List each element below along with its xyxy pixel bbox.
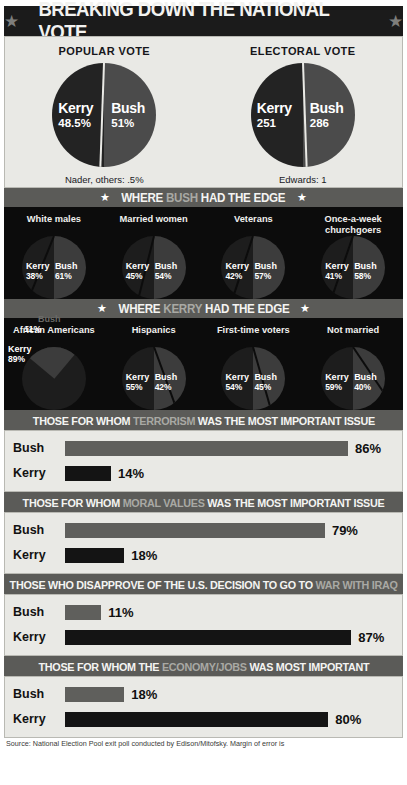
mini-group-title: Hispanics <box>132 325 176 346</box>
star-icon-left: ★ <box>4 13 19 30</box>
pie-label-bush-name: Bush <box>354 261 377 271</box>
star-icon-left: ★ <box>97 303 107 314</box>
bar-track: 80% <box>65 712 394 727</box>
pie-label-bush: Bush 42% <box>155 372 182 392</box>
band-highlight: KERRY <box>163 302 202 316</box>
mini-pie: Kerry 59% Bush 40% <box>321 347 385 410</box>
bar-row-bush: Bush 79% <box>13 520 394 540</box>
electoral-vote-group: ELECTORAL VOTE Kerry 251 Bush 286 Edward… <box>204 37 403 185</box>
bar-value-bush: 11% <box>108 605 133 620</box>
source-note: Source: National Election Pool exit poll… <box>4 740 403 748</box>
mini-pie-labels: Kerry 59% Bush 40% <box>321 347 385 410</box>
bar-label-kerry: Kerry <box>13 630 65 644</box>
bar-value-bush: 79% <box>332 523 358 538</box>
bar-row-kerry: Kerry 18% <box>13 545 394 565</box>
pie-label-kerry: Kerry 54% <box>225 372 252 392</box>
electoral-vote-pie-labels: Kerry 251 Bush 286 <box>251 63 355 167</box>
pie-label-kerry: Kerry 251 <box>251 101 302 130</box>
bar-kerry <box>65 466 111 481</box>
electoral-vote-note: Edwards: 1 <box>279 174 327 185</box>
bar-label-kerry: Kerry <box>13 712 65 726</box>
star-icon-right: ★ <box>297 192 307 203</box>
star-icon-right: ★ <box>300 303 310 314</box>
bar-kerry <box>65 630 351 645</box>
mini-pie: Kerry 54% Bush 45% <box>221 347 285 410</box>
band-pre: THOSE FOR WHOM <box>23 496 123 509</box>
mini-group-title: Not married <box>327 325 379 346</box>
band-pre: WHERE <box>121 191 166 205</box>
kerry-edge-band: ★ WHERE KERRY HAD THE EDGE ★ <box>4 299 403 318</box>
national-vote-panel: POPULAR VOTE Kerry 48.5% Bush 51% Nader,… <box>4 36 403 188</box>
pie-label-kerry: Kerry 89% <box>8 344 32 364</box>
bar-kerry <box>65 712 328 727</box>
bush-edge-band-text: WHERE BUSH HAD THE EDGE <box>121 191 285 205</box>
popular-vote-note: Nader, others: .5% <box>65 174 144 185</box>
band-highlight: BUSH <box>166 191 198 205</box>
bar-track: 14% <box>65 466 394 481</box>
band-post: WAS THE MOST IMPORTANT ISSUE <box>205 496 385 509</box>
mini-group-white-males: White males Kerry 38% Bush 61% <box>4 207 104 299</box>
mini-pie-labels: Kerry 54% Bush 45% <box>221 347 285 410</box>
bar-value-kerry: 18% <box>131 548 157 563</box>
pie-label-kerry: Kerry 55% <box>126 372 153 392</box>
mini-pie-labels: Kerry 55% Bush 42% <box>122 347 186 410</box>
band-pre: THOSE WHO DISAPPROVE OF THE U.S. DECISIO… <box>10 578 316 591</box>
mini-pie: Kerry 45% Bush 54% <box>122 236 186 299</box>
issue-band-text: THOSE FOR WHOM TERRORISM WAS THE MOST IM… <box>32 414 374 427</box>
pie-label-kerry-value: 55% <box>126 382 143 392</box>
mini-group-title: Married women <box>120 214 188 235</box>
pie-label-bush-value: 61% <box>55 271 72 281</box>
mini-pie-labels: Kerry 45% Bush 54% <box>122 236 186 299</box>
band-highlight: MORAL VALUES <box>123 496 205 509</box>
bar-bush <box>65 687 124 702</box>
issue-band-text: THOSE FOR WHOM THE ECONOMY/JOBS WAS MOST… <box>38 660 369 673</box>
pie-label-kerry-name: Kerry <box>225 261 249 271</box>
pie-label-bush: Bush 40% <box>354 372 381 392</box>
bar-row-kerry: Kerry 87% <box>13 627 394 647</box>
mini-group-hispanics: Hispanics Kerry 55% Bush 42% <box>104 318 204 410</box>
bar-row-bush: Bush 11% <box>13 602 394 622</box>
pie-label-kerry-name: Kerry <box>225 372 249 382</box>
pie-label-kerry-name: Kerry <box>126 261 150 271</box>
bar-row-bush: Bush 86% <box>13 438 394 458</box>
pie-label-bush-name: Bush <box>254 261 277 271</box>
pie-label-kerry-value: 48.5% <box>58 116 91 130</box>
band-post: HAD THE EDGE <box>202 302 289 316</box>
pie-label-bush-name: Bush <box>354 372 377 382</box>
infographic-page: ★ BREAKING DOWN THE NATIONAL VOTE ★ POPU… <box>0 6 407 785</box>
band-post: HAD THE EDGE <box>198 191 285 205</box>
popular-vote-pie-labels: Kerry 48.5% Bush 51% <box>52 63 156 167</box>
bar-track: 18% <box>65 548 394 563</box>
pie-label-kerry-value: 251 <box>257 116 276 130</box>
pie-label-kerry-name: Kerry <box>26 261 50 271</box>
bar-track: 79% <box>65 523 394 538</box>
pie-label-kerry-value: 54% <box>225 382 242 392</box>
mini-group-title: Once-a-week churchgoers <box>303 214 403 235</box>
kerry-edge-panel: African Americans Bush 11% Kerry 89% His… <box>4 318 403 410</box>
pie-label-kerry-value: 89% <box>8 354 25 364</box>
mini-group-title: First-time voters <box>217 325 290 346</box>
bar-bush <box>65 605 101 620</box>
popular-vote-title: POPULAR VOTE <box>58 45 150 57</box>
mini-group-title: White males <box>27 214 81 235</box>
electoral-vote-pie: Kerry 251 Bush 286 <box>251 63 355 167</box>
pie-label-bush-name: Bush <box>111 101 145 116</box>
pie-label-kerry: Kerry 45% <box>126 261 153 281</box>
band-highlight: ECONOMY/JOBS <box>162 660 247 673</box>
pie-label-kerry-value: 41% <box>325 271 342 281</box>
issue-band-terrorism: THOSE FOR WHOM TERRORISM WAS THE MOST IM… <box>4 410 403 430</box>
band-pre: WHERE <box>118 302 163 316</box>
pie-label-kerry: Kerry 41% <box>325 261 352 281</box>
pie-label-bush-name: Bush <box>155 261 178 271</box>
pie-label-bush-value: 54% <box>155 271 172 281</box>
bar-bush <box>65 523 325 538</box>
bush-edge-band: ★ WHERE BUSH HAD THE EDGE ★ <box>4 188 403 207</box>
pie-label-bush-name: Bush <box>310 101 344 116</box>
pie-label-bush: Bush 58% <box>354 261 381 281</box>
star-icon-left: ★ <box>100 192 110 203</box>
bar-track: 87% <box>65 630 394 645</box>
bar-value-bush: 86% <box>355 441 381 456</box>
pie-label-bush-value: 57% <box>254 271 271 281</box>
pie-label-bush-name: Bush <box>55 261 78 271</box>
star-icon-right: ★ <box>388 13 403 30</box>
